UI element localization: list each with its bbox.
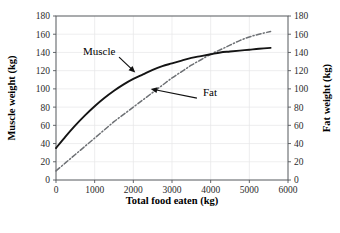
y-right-tick-label: 60	[294, 121, 304, 131]
y-left-tick-label: 120	[36, 66, 51, 76]
annotation-arrowhead	[151, 87, 158, 93]
x-tick-label: 5000	[240, 185, 259, 195]
x-tick-label: 4000	[201, 185, 220, 195]
y-right-tick-label: 80	[294, 103, 304, 113]
x-tick-label: 1000	[85, 185, 104, 195]
y-right-tick-label: 100	[294, 84, 309, 94]
y-left-tick-label: 160	[36, 30, 51, 40]
y-left-tick-label: 80	[41, 103, 51, 113]
chart-page: 0100020003000400050006000 02040608010012…	[0, 0, 340, 233]
x-tick-label: 3000	[163, 185, 182, 195]
x-axis-tick-labels: 0100020003000400050006000	[54, 185, 298, 195]
series-line-muscle	[56, 48, 271, 148]
annotation-leader-line	[119, 57, 132, 69]
y-left-tick-label: 180	[36, 11, 51, 21]
y-left-tick-label: 40	[41, 139, 51, 149]
y-axis-right-tick-labels: 020406080100120140160180	[294, 11, 309, 185]
y-axis-left-tick-labels: 020406080100120140160180	[36, 11, 51, 185]
y-right-tick-label: 0	[294, 175, 299, 185]
y-right-tick-label: 140	[294, 48, 309, 58]
y-left-tick-label: 100	[36, 84, 51, 94]
x-tick-label: 6000	[279, 185, 298, 195]
y-right-tick-label: 160	[294, 30, 309, 40]
y-right-tick-label: 180	[294, 11, 309, 21]
y-left-tick-label: 0	[45, 175, 50, 185]
annotation-label-fat: Fat	[203, 86, 217, 98]
dual-axis-line-chart: 0100020003000400050006000 02040608010012…	[0, 0, 340, 233]
y-axis-left-title: Muscle weight (kg)	[6, 55, 18, 141]
annotation-leader-line	[155, 90, 197, 98]
y-axis-right-title: Fat weight (kg)	[321, 63, 333, 132]
gridlines	[56, 16, 288, 180]
y-right-tick-label: 40	[294, 139, 304, 149]
x-tick-label: 2000	[124, 185, 143, 195]
y-left-tick-label: 60	[41, 121, 51, 131]
y-left-tick-label: 140	[36, 48, 51, 58]
x-axis-title: Total food eaten (kg)	[126, 195, 219, 207]
y-right-tick-label: 120	[294, 66, 309, 76]
y-left-tick-label: 20	[41, 157, 51, 167]
x-tick-label: 0	[54, 185, 59, 195]
y-right-tick-label: 20	[294, 157, 304, 167]
annotation-label-muscle: Muscle	[83, 45, 116, 57]
